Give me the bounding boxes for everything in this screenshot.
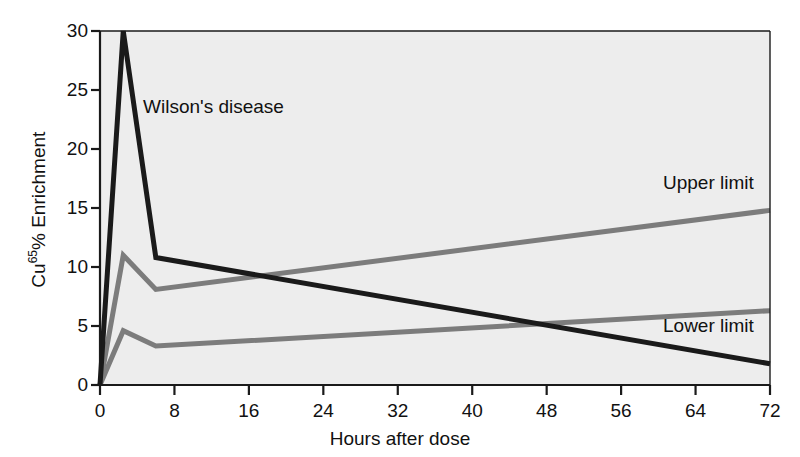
x-tick-label: 56 [591, 401, 651, 420]
x-tick-label: 0 [70, 401, 130, 420]
x-tick-label: 64 [666, 401, 726, 420]
x-tick-label: 24 [293, 401, 353, 420]
x-tick-label: 48 [517, 401, 577, 420]
x-axis-title: Hours after dose [0, 428, 800, 450]
x-tick-label: 72 [740, 401, 800, 420]
series-label-wilsons-disease: Wilson's disease [143, 96, 284, 118]
y-tick-label: 30 [30, 21, 88, 40]
x-tick-label: 40 [442, 401, 502, 420]
y-axis-title-superscript: 65 [26, 250, 40, 263]
series-label-upper-limit: Upper limit [663, 172, 754, 194]
y-axis-title-base: Cu [28, 263, 49, 287]
y-axis-title-rest: % Enrichment [28, 132, 49, 250]
series-label-lower-limit: Lower limit [663, 315, 754, 337]
y-axis-title: Cu65% Enrichment [26, 80, 49, 340]
y-tick-label: 0 [30, 375, 88, 394]
x-tick-label: 8 [144, 401, 204, 420]
chart-figure: 051015202530 081624324048566472 Cu65% En… [0, 0, 800, 457]
line-chart-canvas [0, 0, 800, 457]
x-tick-label: 32 [368, 401, 428, 420]
x-tick-label: 16 [219, 401, 279, 420]
